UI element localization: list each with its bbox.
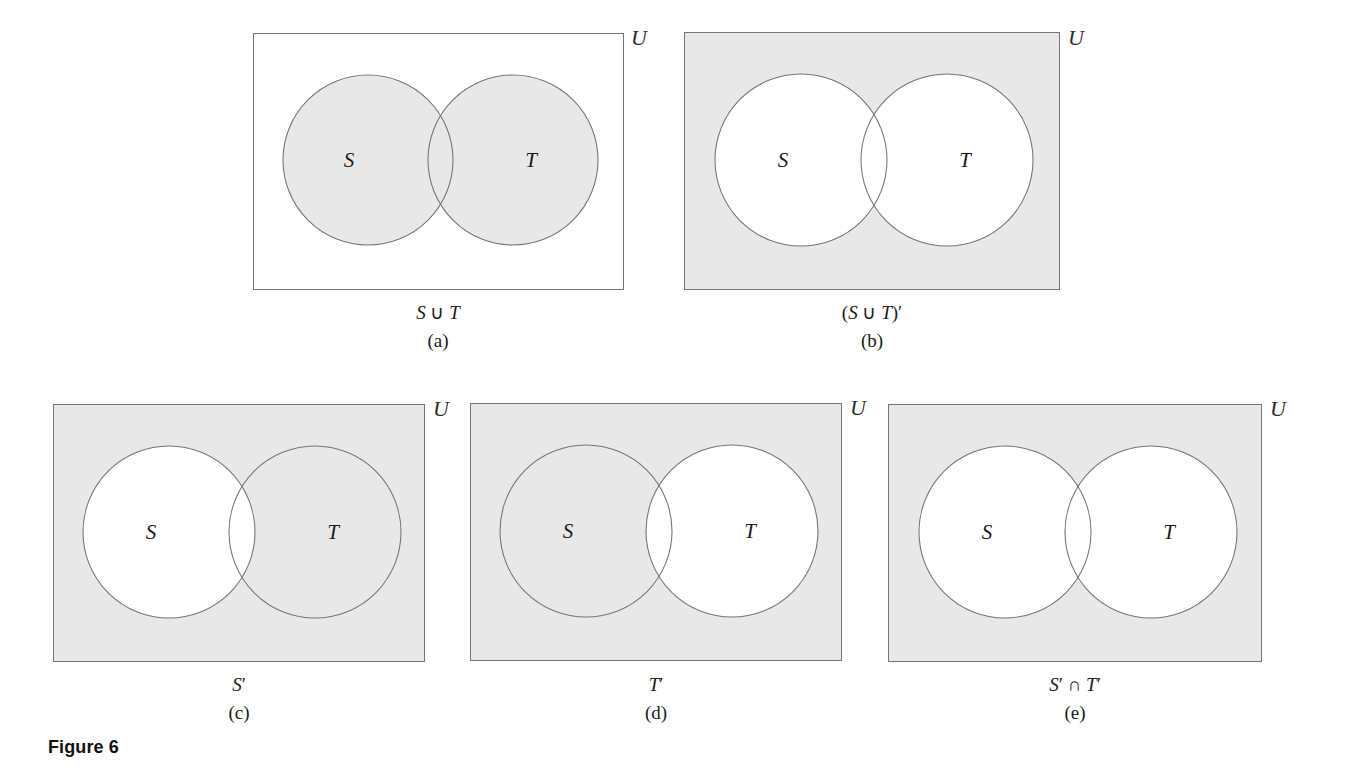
venn-panel-c: S T [53,404,425,662]
venn-panel-b: S T [684,32,1060,290]
venn-panel-a: S T [253,33,624,290]
universe-label-d: U [850,397,866,419]
expr-post-e: ′ [1097,674,1101,695]
expr-op-e: ′ ∩ [1059,674,1086,695]
set-label-t-e: T [1163,520,1176,544]
panel-expression-d: T′ [531,671,781,699]
panel-caption-a: S ∪ T (a) [313,299,563,354]
expr-right-b: T [881,302,892,323]
expr-right-a: T [449,302,460,323]
panel-expression-a: S ∪ T [313,299,563,327]
universe-rect-e [889,405,1262,662]
venn-diagram-e: S T [888,404,1262,662]
expr-left-c: S [232,674,242,695]
set-label-s-a: S [344,148,355,172]
venn-diagram-d: S T [470,403,842,661]
panel-tag-b: (b) [747,327,997,355]
expr-op-b: ∪ [858,302,882,323]
panel-tag-d: (d) [531,699,781,727]
panel-caption-e: S′ ∩ T′ (e) [950,671,1200,726]
figure-title: Figure 6 [48,737,119,758]
expr-left-b: S [848,302,858,323]
expr-post-d: ′ [659,674,663,695]
expr-left-d: T [649,674,660,695]
universe-label-b: U [1068,27,1084,49]
panel-expression-c: S′ [114,671,364,699]
panel-caption-d: T′ (d) [531,671,781,726]
expr-post-c: ′ [242,674,246,695]
universe-label-c: U [433,398,449,420]
set-label-t-c: T [327,520,340,544]
venn-panel-d: S T [470,403,842,661]
universe-rect-d [471,404,842,661]
venn-diagram-b: S T [684,32,1060,290]
expr-op-a: ∪ [426,302,450,323]
venn-diagram-a: S T [253,33,624,290]
universe-rect-c [54,405,425,662]
panel-tag-a: (a) [313,327,563,355]
set-label-s-c: S [146,520,157,544]
expr-left-a: S [416,302,426,323]
set-label-t-b: T [959,148,972,172]
universe-rect-b [685,33,1060,290]
panel-tag-c: (c) [114,699,364,727]
set-label-t-d: T [744,519,757,543]
set-label-s-e: S [982,520,993,544]
set-label-s-d: S [563,519,574,543]
panel-caption-c: S′ (c) [114,671,364,726]
figure-canvas: S T U S ∪ T (a) S T [0,0,1351,780]
panel-expression-e: S′ ∩ T′ [950,671,1200,699]
expr-right-e: T [1086,674,1097,695]
panel-tag-e: (e) [950,699,1200,727]
venn-panel-e: S T [888,404,1262,662]
set-label-s-b: S [778,148,789,172]
expr-left-e: S [1049,674,1059,695]
universe-label-a: U [631,27,647,49]
panel-expression-b: (S ∪ T)′ [747,299,997,327]
expr-post-b: )′ [892,302,902,323]
venn-diagram-c: S T [53,404,425,662]
universe-label-e: U [1270,398,1286,420]
panel-caption-b: (S ∪ T)′ (b) [747,299,997,354]
set-label-t-a: T [525,148,538,172]
